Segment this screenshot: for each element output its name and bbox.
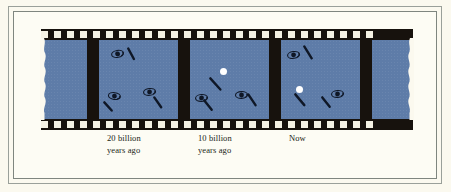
sprocket-hole (106, 121, 113, 128)
sprocket-hole (353, 31, 360, 38)
sprocket-hole (41, 31, 48, 38)
frame-grain (372, 40, 413, 119)
spiral-galaxy-icon (286, 49, 299, 60)
sprocket-hole (184, 31, 191, 38)
sprocket-hole (301, 121, 308, 128)
sprocket-hole (197, 31, 204, 38)
sprocket-hole (132, 121, 139, 128)
sprocket-hole (314, 121, 321, 128)
sprocket-hole (67, 31, 74, 38)
sprocket-hole (262, 31, 269, 38)
caption-20-billion: 20 billion years ago (107, 133, 141, 156)
sprocket-hole (249, 31, 256, 38)
sprocket-row-top (41, 30, 413, 39)
frame-grain (41, 40, 87, 119)
sprocket-hole (132, 31, 139, 38)
film-frame-3 (190, 40, 269, 119)
sprocket-hole (366, 121, 373, 128)
spiral-galaxy-icon (331, 88, 344, 98)
sprocket-hole (314, 31, 321, 38)
caption-now: Now (289, 133, 306, 145)
caption-10-billion: 10 billion years ago (198, 133, 232, 156)
figure-container: 20 billion years ago10 billion years ago… (0, 0, 451, 192)
sprocket-hole (249, 121, 256, 128)
film-strip (41, 29, 413, 130)
frame-grain (190, 40, 269, 119)
sprocket-hole (54, 121, 61, 128)
sprocket-hole (366, 31, 373, 38)
sprocket-hole (145, 31, 152, 38)
bright-point-icon (296, 86, 303, 93)
sprocket-hole (171, 31, 178, 38)
sprocket-hole (67, 121, 74, 128)
film-frame-4 (281, 40, 360, 119)
caption-row: 20 billion years ago10 billion years ago… (41, 133, 413, 165)
sprocket-hole (288, 31, 295, 38)
sprocket-hole (145, 121, 152, 128)
sprocket-hole (340, 121, 347, 128)
film-frame-1 (41, 40, 87, 119)
sprocket-hole (288, 121, 295, 128)
sprocket-hole (327, 31, 334, 38)
sprocket-hole (80, 31, 87, 38)
sprocket-hole (210, 31, 217, 38)
sprocket-hole (93, 31, 100, 38)
film-frame-2 (99, 40, 178, 119)
sprocket-hole (197, 121, 204, 128)
spiral-galaxy-icon (107, 90, 120, 101)
sprocket-hole (184, 121, 191, 128)
sprocket-hole (158, 121, 165, 128)
sprocket-hole (41, 121, 48, 128)
sprocket-hole (236, 31, 243, 38)
sprocket-hole (93, 121, 100, 128)
sprocket-hole (106, 31, 113, 38)
film-frame-5 (372, 40, 413, 119)
spiral-galaxy-icon (143, 86, 156, 96)
spiral-galaxy-icon (110, 48, 123, 59)
sprocket-hole (119, 121, 126, 128)
sprocket-hole (275, 31, 282, 38)
sprocket-hole (171, 121, 178, 128)
sprocket-hole (301, 31, 308, 38)
sprocket-hole (327, 121, 334, 128)
sprocket-hole (223, 31, 230, 38)
sprocket-hole (210, 121, 217, 128)
sprocket-hole (236, 121, 243, 128)
sprocket-hole (223, 121, 230, 128)
sprocket-hole (340, 31, 347, 38)
sprocket-hole (54, 31, 61, 38)
film-frames (41, 40, 413, 119)
sprocket-row-bottom (41, 120, 413, 129)
sprocket-hole (275, 121, 282, 128)
sprocket-hole (262, 121, 269, 128)
sprocket-hole (353, 121, 360, 128)
sprocket-hole (119, 31, 126, 38)
sprocket-hole (158, 31, 165, 38)
sprocket-hole (80, 121, 87, 128)
bright-point-icon (220, 68, 227, 75)
